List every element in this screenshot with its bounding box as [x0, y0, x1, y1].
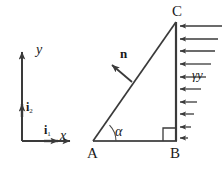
normal-vector [112, 65, 132, 82]
wedge-triangle [93, 22, 177, 141]
y-axis-label: y [36, 43, 42, 57]
angle-alpha-label: α [115, 125, 122, 139]
figure-canvas [0, 0, 223, 169]
basis-i2-subscript: 2 [29, 107, 33, 115]
basis-i1-subscript: 1 [47, 130, 51, 138]
vertex-label-C: C [172, 4, 182, 19]
basis-vector-i2-label: i2 [26, 101, 33, 113]
normal-vector-label: n [120, 47, 127, 60]
pressure-loaded-wedge-figure: y x i2 i1 A B C α n γy [0, 0, 223, 169]
vertex-label-A: A [87, 146, 98, 161]
pressure-load-arrows [180, 26, 222, 138]
vertex-label-B: B [170, 146, 180, 161]
basis-vector-i1-label: i1 [44, 124, 51, 136]
edge-AC-hypotenuse [93, 22, 176, 141]
normal-vector-arrow [112, 65, 132, 82]
x-axis-label: x [60, 129, 66, 143]
right-angle-marker [163, 128, 176, 141]
pressure-load-label: γy [192, 68, 203, 81]
